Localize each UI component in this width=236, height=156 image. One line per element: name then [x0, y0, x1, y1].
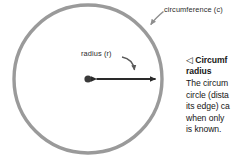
- caption-heading-line-1: Circumf: [195, 55, 227, 65]
- caption-body-line: when only: [186, 113, 236, 124]
- circle-center-dot: [84, 75, 91, 82]
- caption-block: ◁ Circumf radius The circum circle (dist…: [186, 55, 236, 135]
- caption-body-line: circle (dista: [186, 90, 236, 101]
- caption-body-line: its edge) ca: [186, 101, 236, 112]
- caption-body: The circum circle (dista its edge) ca wh…: [186, 78, 236, 135]
- caption-body-line: The circum: [186, 78, 236, 89]
- circumference-leader-arrow: [151, 12, 164, 25]
- caption-marker-icon: ◁: [186, 55, 193, 65]
- caption-body-line: is known.: [186, 124, 236, 135]
- caption-heading: ◁ Circumf radius: [186, 55, 236, 77]
- radius-label: radius (r): [81, 49, 112, 58]
- caption-heading-line-2: radius: [186, 66, 236, 77]
- circumference-label: circumference (c): [164, 5, 223, 14]
- figure-panel: circumference (c) radius (r) ◁ Circumf r…: [0, 0, 236, 156]
- radius-leader-arrow: [122, 57, 135, 70]
